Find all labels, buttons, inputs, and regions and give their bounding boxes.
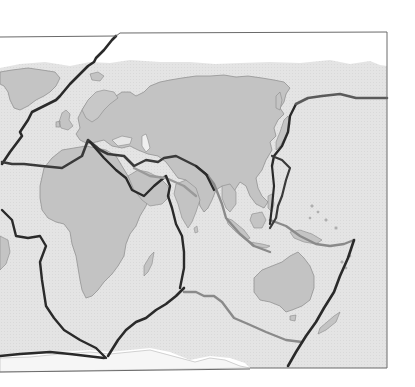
tectonic-plate-map bbox=[0, 0, 415, 387]
map-canvas bbox=[0, 0, 415, 387]
tasmania bbox=[290, 315, 296, 321]
